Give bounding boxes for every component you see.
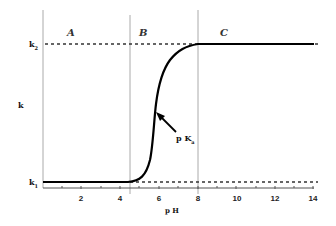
- pka-annotation: p Ka: [176, 133, 195, 145]
- titration-chart: [0, 0, 336, 226]
- region-label-b: B: [139, 27, 147, 38]
- x-tick-6: 6: [157, 194, 161, 203]
- x-axis-label: p H: [165, 206, 179, 215]
- k-upper-label: k2: [29, 39, 38, 51]
- region-label-c: C: [220, 27, 228, 38]
- k-lower-label: k1: [29, 177, 38, 189]
- region-label-a: A: [67, 27, 75, 38]
- x-tick-4: 4: [118, 194, 122, 203]
- y-axis-label: k: [18, 100, 24, 110]
- x-tick-10: 10: [233, 194, 242, 203]
- x-tick-2: 2: [79, 194, 83, 203]
- x-tick-12: 12: [271, 194, 280, 203]
- x-tick-8: 8: [196, 194, 200, 203]
- k-vs-ph-curve: [43, 44, 314, 182]
- x-tick-14: 14: [309, 194, 318, 203]
